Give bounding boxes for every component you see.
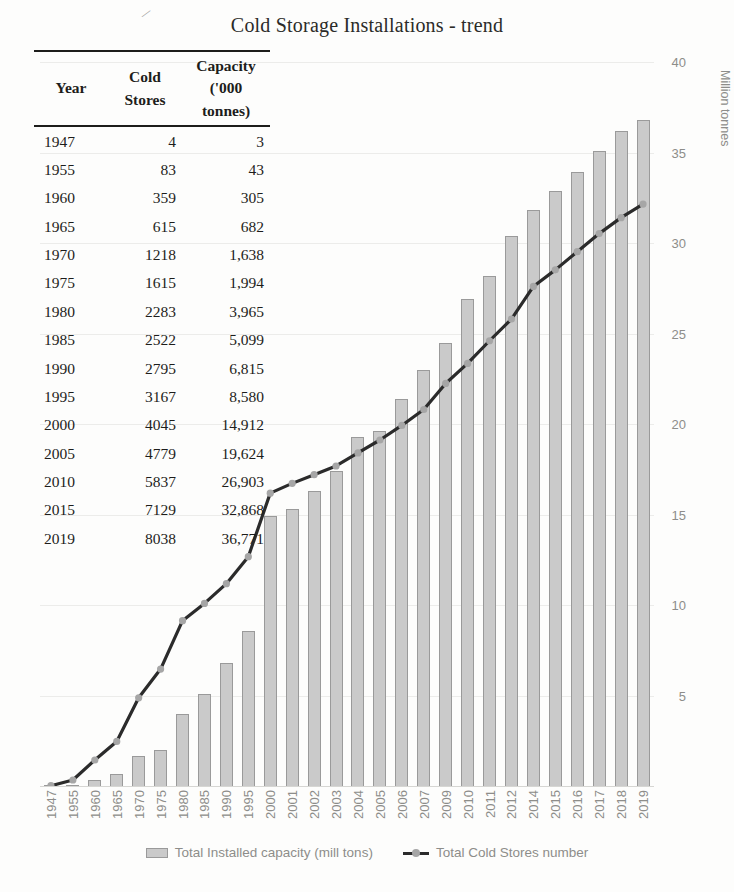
bar[interactable] — [286, 509, 299, 786]
bar[interactable] — [176, 714, 189, 786]
cell-capacity: 5,099 — [182, 326, 270, 354]
cell-year: 2015 — [34, 496, 108, 524]
bar[interactable] — [242, 631, 255, 786]
cell-year: 1985 — [34, 326, 108, 354]
x-tick-label: 2019 — [636, 790, 651, 819]
bar[interactable] — [571, 172, 584, 786]
bar[interactable] — [439, 343, 452, 786]
cell-capacity: 6,815 — [182, 354, 270, 382]
legend-item-cold-stores[interactable]: Total Cold Stores number — [403, 845, 588, 860]
x-tick-label: 2015 — [548, 790, 563, 819]
cell-year: 1990 — [34, 354, 108, 382]
y-tick-label: 30 — [672, 236, 686, 251]
x-tick-label: 2018 — [614, 790, 629, 819]
x-tick-label: 2001 — [285, 790, 300, 819]
table-row: 2000404514,912 — [34, 411, 270, 439]
cell-cold-stores: 2795 — [108, 354, 182, 382]
table-row: 2010583726,903 — [34, 468, 270, 496]
bar[interactable] — [593, 151, 606, 786]
table-row: 194743 — [34, 126, 270, 155]
x-tick-label: 1965 — [110, 790, 125, 819]
y-tick-label: 15 — [672, 507, 686, 522]
x-tick-label: 2009 — [439, 790, 454, 819]
cell-capacity: 3 — [182, 126, 270, 155]
y-tick-label: 5 — [679, 688, 686, 703]
bar[interactable] — [483, 276, 496, 786]
column-header-capacity-line3: tonnes) — [188, 100, 264, 122]
cell-year: 2019 — [34, 525, 108, 553]
table-body: 1947431955834319603593051965615682197012… — [34, 126, 270, 553]
bar[interactable] — [615, 131, 628, 786]
bar[interactable] — [395, 399, 408, 786]
y-axis: 403530252015105 — [656, 62, 690, 786]
cell-capacity: 682 — [182, 213, 270, 241]
table-row: 197012181,638 — [34, 241, 270, 269]
cell-year: 1980 — [34, 298, 108, 326]
y-tick-label: 10 — [672, 598, 686, 613]
cell-capacity: 1,638 — [182, 241, 270, 269]
x-tick-label: 2017 — [592, 790, 607, 819]
bar[interactable] — [505, 236, 518, 786]
bar[interactable] — [461, 299, 474, 786]
cell-year: 1965 — [34, 213, 108, 241]
bar[interactable] — [373, 431, 386, 786]
cell-cold-stores: 5837 — [108, 468, 182, 496]
y-tick-label: 25 — [672, 326, 686, 341]
bar[interactable] — [549, 191, 562, 786]
cell-year: 1970 — [34, 241, 108, 269]
table-row: 2005477919,624 — [34, 440, 270, 468]
cell-capacity: 36,771 — [182, 525, 270, 553]
cell-year: 1947 — [34, 126, 108, 155]
line-swatch-icon — [403, 848, 429, 858]
bar[interactable] — [154, 750, 167, 786]
x-tick-label: 1955 — [66, 790, 81, 819]
cell-year: 2005 — [34, 440, 108, 468]
x-tick-label: 2004 — [351, 790, 366, 819]
bar[interactable] — [220, 663, 233, 786]
data-table: Year Cold Stores Capacity ('000 tonnes) … — [34, 50, 270, 553]
cell-cold-stores: 2283 — [108, 298, 182, 326]
x-tick-label: 2012 — [504, 790, 519, 819]
cell-year: 1960 — [34, 184, 108, 212]
cell-capacity: 14,912 — [182, 411, 270, 439]
y-axis-title: Million tonnes — [718, 70, 732, 146]
cell-capacity: 8,580 — [182, 383, 270, 411]
x-tick-label: 2016 — [570, 790, 585, 819]
cell-capacity: 32,868 — [182, 496, 270, 524]
bar[interactable] — [264, 516, 277, 786]
table-row: 1965615682 — [34, 213, 270, 241]
column-header-year: Year — [34, 51, 108, 126]
bar[interactable] — [88, 780, 101, 786]
x-tick-label: 2003 — [329, 790, 344, 819]
legend-item-capacity[interactable]: Total Installed capacity (mill tons) — [146, 845, 373, 860]
x-tick-label: 2000 — [263, 790, 278, 819]
bar[interactable] — [351, 437, 364, 786]
cell-year: 2000 — [34, 411, 108, 439]
bar[interactable] — [637, 120, 650, 786]
bar[interactable] — [330, 471, 343, 786]
table-header-row: Year Cold Stores Capacity ('000 tonnes) — [34, 51, 270, 126]
x-tick-label: 2002 — [307, 790, 322, 819]
cell-cold-stores: 2522 — [108, 326, 182, 354]
legend-label-cold-stores: Total Cold Stores number — [436, 845, 588, 860]
bar[interactable] — [527, 210, 540, 786]
bar[interactable] — [132, 756, 145, 786]
table-row: 198525225,099 — [34, 326, 270, 354]
cell-capacity: 26,903 — [182, 468, 270, 496]
x-tick-label: 1990 — [219, 790, 234, 819]
bar[interactable] — [44, 785, 57, 787]
bar[interactable] — [66, 785, 79, 787]
table-row: 2019803836,771 — [34, 525, 270, 553]
table-row: 198022833,965 — [34, 298, 270, 326]
bar[interactable] — [417, 370, 430, 786]
bar[interactable] — [198, 694, 211, 786]
gridline-0 — [40, 786, 654, 787]
bar[interactable] — [308, 491, 321, 786]
bar-swatch-icon — [146, 848, 168, 858]
x-tick-label: 1975 — [154, 790, 169, 819]
x-tick-label: 1947 — [44, 790, 59, 819]
x-tick-label: 2010 — [461, 790, 476, 819]
bar[interactable] — [110, 774, 123, 786]
table-head: Year Cold Stores Capacity ('000 tonnes) — [34, 51, 270, 126]
cell-cold-stores: 4045 — [108, 411, 182, 439]
